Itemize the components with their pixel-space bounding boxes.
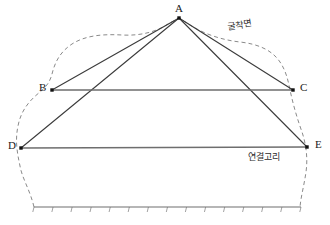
hatch-tick [128,207,129,212]
hatch-tick [224,207,225,212]
vertex-marker-b [50,88,53,91]
hatch-tick [90,207,91,212]
hatch-tick [109,207,110,212]
ground-outline-group [17,18,307,207]
hatch-tick [281,207,282,212]
hatch-tick [147,207,148,212]
diagram-canvas [0,0,330,225]
vertex-marker-d [19,146,22,149]
hatch-tick [33,207,34,212]
vertex-marker-e [305,145,308,148]
vertex-marker-a [177,16,180,19]
truss-edge-ae [179,18,307,147]
hatch-tick [262,207,263,212]
hatch-tick [300,207,301,212]
vertex-label-b: B [39,82,46,93]
hatch-tick-group [33,207,301,212]
vertex-label-e: E [315,139,322,150]
annotation-link-ring: 연결고리 [248,152,280,162]
hatch-tick [166,207,167,212]
vertex-label-d: D [8,140,16,151]
hatch-tick [243,207,244,212]
vertex-label-c: C [300,82,307,93]
truss-edge-group [21,18,307,148]
truss-edge-ab [52,18,179,90]
hatch-tick [204,207,205,212]
vertex-label-a: A [175,3,183,14]
vertex-marker-group [19,16,308,149]
hatch-tick [52,207,53,212]
vertex-marker-c [291,88,294,91]
truss-edge-de [21,147,307,148]
hatch-tick [185,207,186,212]
excavation-diagram: ABCDE 굴착면연결고리 [0,0,330,225]
ground-outline-path [17,18,307,207]
hatch-tick [71,207,72,212]
